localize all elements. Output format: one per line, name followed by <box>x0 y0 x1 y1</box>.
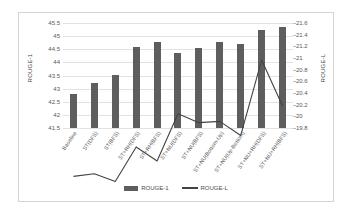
y-axis-right-tickmark <box>293 81 296 82</box>
y-axis-left-tick-label: 41.5 <box>48 125 60 131</box>
y-axis-left-tick-label: 44 <box>53 59 60 65</box>
y-axis-right-tickmark <box>293 46 296 47</box>
y-axis-left-tick-label: 43 <box>53 86 60 92</box>
y-axis-left-title: ROUGE-1 <box>27 45 33 91</box>
y-axis-right-tick-label: 20.6 <box>296 78 308 84</box>
cat-slot: Baseline <box>63 129 84 181</box>
y-axis-left-tick-label: 45 <box>53 33 60 39</box>
y-axis-right-tickmark <box>293 23 296 24</box>
line-series-rouge-l <box>63 23 293 222</box>
y-axis-right-tickmark <box>293 105 296 106</box>
cat-slot: ST(DFS) <box>84 129 105 181</box>
y-axis-right-tick-label: 20.4 <box>296 90 308 96</box>
y-axis-right-title: ROUGE-L <box>320 45 326 91</box>
y-axis-left-tick-label: 44.5 <box>48 46 60 52</box>
x-axis-tick-label: ST(DFS) <box>82 130 100 151</box>
y-axis-right-tickmark <box>293 93 296 94</box>
y-axis-left-tick-label: 45.5 <box>48 20 60 26</box>
plot-area: 41.54242.54343.54444.54545.5 19.82020.22… <box>63 23 293 128</box>
y-axis-right-tickmark <box>293 116 296 117</box>
legend-item-rouge-l: ROUGE-L <box>182 185 228 191</box>
y-axis-right-tick-label: 20.2 <box>296 102 308 108</box>
y-axis-left-tick-label: 43.5 <box>48 73 60 79</box>
y-axis-right-tick-label: 19.8 <box>296 125 308 131</box>
y-axis-right-tick-label: 20 <box>296 113 303 119</box>
y-axis-right-tick-label: 21.2 <box>296 43 308 49</box>
y-axis-right-tickmark <box>293 58 296 59</box>
y-axis-right-tick-label: 21.6 <box>296 20 308 26</box>
legend-item-rouge-1: ROUGE-1 <box>124 185 168 191</box>
legend-label-rouge-1: ROUGE-1 <box>141 185 168 191</box>
plot-inner: 41.54242.54343.54444.54545.5 19.82020.22… <box>63 23 293 128</box>
x-axis-category-labels: BaselineST(DFS)ST(BFS)ST+RH(DFS)ST+RH(BF… <box>63 129 293 181</box>
x-axis-tick-label: ST(BFS) <box>103 130 120 151</box>
chart-container: ROUGE-1 ROUGE-L 41.54242.54343.54444.545… <box>18 12 334 202</box>
line-swatch-icon <box>182 187 198 189</box>
y-axis-right-tick-label: 21 <box>296 55 303 61</box>
x-axis-tick-label: Baseline <box>61 130 78 151</box>
y-axis-right-tickmark <box>293 128 296 129</box>
y-axis-left-tick-label: 42.5 <box>48 99 60 105</box>
cat-slot: ST+NU+RH(BFS) <box>272 129 293 181</box>
chart-legend: ROUGE-1 ROUGE-L <box>19 185 333 191</box>
y-axis-right-tick-label: 21.4 <box>296 32 308 38</box>
bar-swatch-icon <box>124 186 138 191</box>
y-axis-right-tickmark <box>293 70 296 71</box>
y-axis-left-tick-label: 42 <box>53 112 60 118</box>
y-axis-right-tickmark <box>293 35 296 36</box>
y-axis-right-tick-label: 20.8 <box>296 67 308 73</box>
legend-label-rouge-l: ROUGE-L <box>201 185 228 191</box>
